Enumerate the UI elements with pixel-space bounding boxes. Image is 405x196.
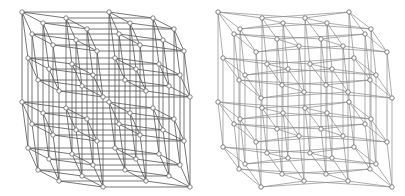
edge bbox=[32, 124, 76, 130]
vertex-node bbox=[303, 16, 307, 20]
vertex-node bbox=[161, 38, 165, 42]
vertex-node bbox=[286, 156, 290, 160]
vertex-node bbox=[123, 78, 127, 82]
edge bbox=[365, 34, 370, 80]
vertex-node bbox=[123, 168, 127, 172]
vertex-node bbox=[182, 139, 186, 143]
vertex-node bbox=[47, 157, 51, 161]
vertex-node bbox=[138, 43, 142, 47]
edge bbox=[49, 159, 93, 165]
vertex-node bbox=[369, 27, 373, 31]
edge bbox=[326, 80, 370, 85]
edge bbox=[53, 135, 97, 141]
vertex-node bbox=[70, 152, 74, 156]
edge bbox=[299, 46, 304, 92]
vertex-node bbox=[167, 174, 171, 178]
vertex-node bbox=[324, 172, 328, 176]
vertex-node bbox=[259, 96, 263, 100]
vertex-node bbox=[57, 179, 61, 183]
vertex-node bbox=[216, 10, 220, 14]
edge bbox=[140, 45, 184, 51]
edge bbox=[326, 85, 348, 92]
vertex-node bbox=[85, 27, 89, 31]
vertex-node bbox=[85, 117, 89, 121]
vertex-node bbox=[151, 106, 155, 110]
vertex-node bbox=[319, 127, 323, 131]
vertex-node bbox=[302, 179, 306, 183]
vertex-node bbox=[172, 117, 176, 121]
vertex-node bbox=[178, 73, 182, 77]
vertex-node bbox=[297, 44, 301, 48]
vertex-node bbox=[368, 78, 372, 82]
edge bbox=[109, 12, 153, 18]
vertex-node bbox=[161, 128, 165, 132]
vertex-node bbox=[352, 56, 356, 60]
edge bbox=[354, 58, 370, 80]
vertex-node bbox=[254, 50, 258, 54]
vertex-node bbox=[26, 56, 30, 60]
vertex-node bbox=[138, 133, 142, 137]
vertex-node bbox=[319, 37, 323, 41]
vertex-node bbox=[47, 67, 51, 71]
edge bbox=[218, 102, 223, 147]
vertex-node bbox=[41, 111, 45, 115]
edge bbox=[234, 34, 239, 80]
vertex-node bbox=[178, 163, 182, 167]
vertex-node bbox=[20, 100, 24, 104]
vertex-node bbox=[107, 10, 111, 14]
vertex-node bbox=[232, 32, 236, 36]
edge bbox=[136, 159, 180, 165]
vertex-node bbox=[41, 21, 45, 25]
vertex-node bbox=[36, 168, 40, 172]
edge bbox=[38, 80, 82, 86]
edge bbox=[130, 23, 174, 29]
vertex-node bbox=[346, 179, 350, 183]
edge bbox=[326, 174, 348, 181]
vertex-node bbox=[374, 73, 378, 77]
edge bbox=[327, 23, 332, 69]
vertex-node bbox=[128, 111, 132, 115]
vertex-node bbox=[30, 122, 34, 126]
vertex-node bbox=[144, 89, 148, 93]
edge bbox=[125, 170, 169, 176]
vertex-node bbox=[390, 185, 394, 189]
graph-drawings-canvas bbox=[0, 0, 405, 196]
edge bbox=[321, 34, 365, 39]
edge bbox=[136, 69, 180, 75]
edge bbox=[234, 34, 277, 39]
vertex-node bbox=[265, 151, 269, 155]
vertex-node bbox=[128, 21, 132, 25]
vertex-node bbox=[363, 122, 367, 126]
edge bbox=[49, 69, 93, 75]
vertex-node bbox=[36, 78, 40, 82]
vertex-node bbox=[113, 146, 117, 150]
edge bbox=[22, 102, 66, 108]
vertex-node bbox=[107, 100, 111, 104]
edge bbox=[240, 119, 245, 164]
edge bbox=[282, 85, 304, 92]
vertex-node bbox=[80, 84, 84, 88]
vertex-node bbox=[390, 96, 394, 100]
vertex-node bbox=[20, 10, 24, 14]
vertex-node bbox=[259, 185, 263, 189]
vertex-node bbox=[281, 111, 285, 115]
vertex-node bbox=[324, 83, 328, 87]
edge bbox=[321, 39, 343, 46]
edge bbox=[223, 58, 239, 80]
vertex-node bbox=[51, 133, 55, 137]
edge bbox=[125, 80, 169, 86]
vertex-node bbox=[237, 78, 241, 82]
vertex-node bbox=[330, 67, 334, 71]
vertex-node bbox=[308, 151, 312, 155]
vertex-node bbox=[182, 49, 186, 53]
edge bbox=[310, 58, 354, 64]
vertex-node bbox=[303, 106, 307, 110]
vertex-node bbox=[325, 21, 329, 25]
edge bbox=[261, 92, 304, 98]
vertex-node bbox=[265, 62, 269, 66]
vertex-node bbox=[26, 146, 30, 150]
edge bbox=[53, 45, 97, 51]
vertex-node bbox=[243, 73, 247, 77]
edge bbox=[115, 58, 159, 64]
edge bbox=[240, 113, 283, 119]
